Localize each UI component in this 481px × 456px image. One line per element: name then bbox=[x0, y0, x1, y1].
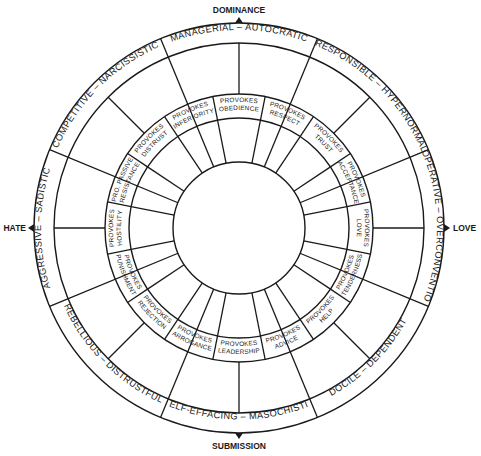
segment-divider bbox=[294, 265, 331, 289]
interpersonal-circle-diagram: MANAGERIAL – AUTOCRATICRESPONSIBLE – HYP… bbox=[0, 0, 481, 456]
segment-divider bbox=[131, 241, 174, 250]
outer-octant-label: AGGRESSIVE – SADISTIC bbox=[33, 166, 52, 290]
axis-label-love: LOVE bbox=[453, 223, 476, 233]
segment-divider bbox=[276, 137, 300, 174]
provokes-band-outer-ring bbox=[105, 94, 373, 362]
octant-divider bbox=[300, 253, 428, 306]
segment-divider bbox=[148, 265, 185, 289]
submission-marker-icon bbox=[235, 433, 243, 439]
provokes-label-line1: PROVOKES bbox=[107, 209, 115, 248]
axis-label-hate: HATE bbox=[3, 223, 26, 233]
octant-divider bbox=[161, 289, 214, 417]
segment-divider bbox=[213, 336, 218, 360]
provokes-label-line2: OBEDIENCE bbox=[218, 104, 259, 113]
dominance-marker-icon bbox=[235, 17, 243, 23]
center-circle bbox=[173, 162, 305, 294]
outer-octant-label: MANAGERIAL – AUTOCRATIC bbox=[169, 22, 309, 44]
axis-label-dominance: DOMINANCE bbox=[213, 5, 266, 15]
mid-zone-divider bbox=[334, 97, 370, 133]
provokes-label-line2: LEADERSHIP bbox=[218, 346, 261, 355]
segment-divider bbox=[260, 97, 265, 121]
hate-marker-icon bbox=[28, 224, 34, 232]
provokes-label-line1: PROVOKES bbox=[220, 339, 258, 347]
segment-divider bbox=[218, 293, 227, 336]
segment-divider bbox=[300, 319, 313, 339]
segment-divider bbox=[347, 249, 371, 254]
segment-divider bbox=[294, 167, 331, 191]
segment-divider bbox=[304, 207, 347, 216]
mid-zone-divider bbox=[108, 323, 144, 359]
segment-divider bbox=[252, 120, 261, 163]
provokes-label-line2: LOVE bbox=[356, 219, 363, 238]
segment-divider bbox=[131, 207, 174, 216]
outer-octant-labels: MANAGERIAL – AUTOCRATICRESPONSIBLE – HYP… bbox=[0, 0, 445, 422]
segment-divider bbox=[260, 336, 265, 360]
octant-divider bbox=[50, 253, 178, 306]
segment-divider bbox=[108, 249, 132, 254]
segment-divider bbox=[213, 97, 218, 121]
octant-divider bbox=[264, 289, 317, 417]
outer-octant-label: COOPERATIVE – OVERCONVENTIONAL bbox=[0, 0, 445, 303]
segment-divider bbox=[304, 241, 347, 250]
segment-divider bbox=[276, 283, 300, 320]
provokes-label-line1: PROVOKES bbox=[363, 209, 371, 248]
segment-divider bbox=[252, 293, 261, 336]
love-marker-icon bbox=[444, 224, 450, 232]
provokes-label-line1: PROVOKES bbox=[220, 96, 259, 104]
mid-zone-divider bbox=[334, 323, 370, 359]
axis-label-submission: SUBMISSION bbox=[212, 441, 266, 451]
mid-zone-divider bbox=[108, 97, 144, 133]
provokes-segment-labels: PROVOKESOBEDIENCEPROVOKESRESPECTPROVOKES… bbox=[107, 96, 371, 355]
segment-divider bbox=[178, 283, 202, 320]
segment-divider bbox=[178, 137, 202, 174]
provokes-label-line2: HOSTILITY bbox=[115, 209, 123, 246]
provokes-band-inner-ring bbox=[129, 118, 349, 338]
segment-divider bbox=[218, 120, 227, 163]
segment-divider bbox=[148, 167, 185, 191]
segment-divider bbox=[108, 202, 132, 207]
